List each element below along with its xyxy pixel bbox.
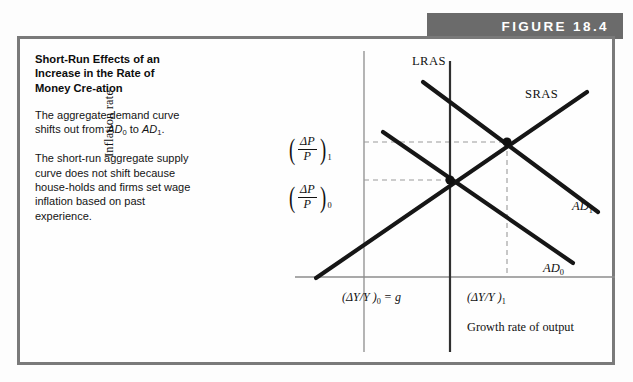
- y-axis-title: Inflation rate: [102, 90, 117, 157]
- paren-open-0: (: [289, 182, 295, 212]
- curve-label-sras: SRAS: [525, 87, 558, 102]
- plot-area: Inflation rate LRAS SRAS AD1 AD0 ( ΔP P …: [195, 39, 615, 362]
- curve-label-lras: LRAS: [412, 54, 446, 69]
- fraction-denominator-1: P: [298, 149, 317, 163]
- caption-p1-ad0-sub: 0: [122, 128, 126, 137]
- fraction-dp-over-p-0: ΔP P: [297, 183, 318, 210]
- y-tick-subscript-1: 1: [328, 153, 332, 162]
- x-tick-1-main: (ΔY/Y ): [467, 290, 502, 304]
- y-tick-label-inflation-1: ( ΔP P ) 1: [287, 134, 332, 164]
- figure-title: Short-Run Effects of an Increase in the …: [35, 52, 191, 95]
- paren-close-1: ): [320, 134, 326, 164]
- curve-label-ad0: AD0: [543, 261, 564, 276]
- x-tick-label-growth-0: (ΔY/Y )0 = g: [342, 290, 401, 305]
- y-tick-label-inflation-0: ( ΔP P ) 0: [287, 182, 332, 212]
- curve-sras: [316, 92, 587, 278]
- fraction-dp-over-p-1: ΔP P: [297, 135, 318, 162]
- caption-p1-mid: to: [127, 123, 142, 135]
- equilibrium-point-1: [502, 137, 511, 146]
- figure-panel-inner: Short-Run Effects of an Increase in the …: [20, 39, 612, 362]
- x-tick-1-sub: 1: [502, 297, 506, 306]
- caption-p1-ad1: AD: [142, 123, 157, 135]
- x-axis-title: Growth rate of output: [467, 320, 574, 335]
- fraction-denominator-0: P: [298, 197, 317, 211]
- caption-paragraph-2: The short-run aggregate supply curve doe…: [35, 151, 191, 222]
- curve-ad0: [383, 132, 573, 263]
- caption-p1-ad1-sub: 1: [157, 128, 161, 137]
- curve-label-ad0-sub: 0: [560, 268, 564, 277]
- fraction-numerator-1: ΔP: [298, 135, 317, 148]
- x-tick-0-sub: 0: [377, 297, 381, 306]
- x-tick-label-growth-1: (ΔY/Y )1: [467, 290, 506, 305]
- paren-open-1: (: [289, 134, 295, 164]
- y-tick-subscript-0: 0: [328, 201, 332, 210]
- curve-label-ad1-sub: 1: [589, 206, 593, 215]
- fraction-numerator-0: ΔP: [298, 183, 317, 196]
- caption-p1-tail: .: [161, 123, 164, 135]
- figure-panel: Short-Run Effects of an Increase in the …: [17, 36, 615, 365]
- equilibrium-point-0: [445, 175, 454, 184]
- x-tick-0-suffix: = g: [381, 290, 401, 304]
- figure-number-label: FIGURE 18.4: [502, 19, 609, 34]
- x-tick-0-main: (ΔY/Y ): [342, 290, 377, 304]
- curve-label-ad0-text: AD: [543, 261, 560, 275]
- paren-close-0: ): [320, 182, 326, 212]
- curve-label-ad1: AD1: [572, 199, 593, 214]
- curve-label-ad1-text: AD: [572, 199, 589, 213]
- figure-root: FIGURE 18.4 Short-Run Effects of an Incr…: [0, 0, 633, 382]
